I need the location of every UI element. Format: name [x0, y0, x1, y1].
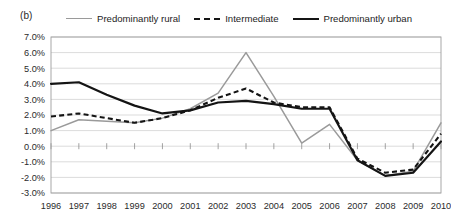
svg-text:2007: 2007: [347, 201, 367, 211]
svg-text:4.0%: 4.0%: [24, 79, 45, 89]
svg-text:2009: 2009: [403, 201, 423, 211]
y-axis-tick-labels: 7.0%6.0%5.0%4.0%3.0%2.0%1.0%0.0%-1.0%-2.…: [21, 32, 45, 198]
svg-text:-2.0%: -2.0%: [21, 173, 45, 183]
svg-text:2010: 2010: [431, 201, 451, 211]
svg-text:2001: 2001: [180, 201, 200, 211]
svg-text:2004: 2004: [264, 201, 284, 211]
svg-text:2000: 2000: [152, 201, 172, 211]
svg-text:2003: 2003: [236, 201, 256, 211]
figure-panel-b: (b) Predominantly rural Intermediate Pre…: [0, 0, 451, 222]
svg-text:5.0%: 5.0%: [24, 64, 45, 74]
svg-text:1999: 1999: [124, 201, 144, 211]
svg-text:3.0%: 3.0%: [24, 95, 45, 105]
svg-text:-3.0%: -3.0%: [21, 188, 45, 198]
svg-text:0.0%: 0.0%: [24, 142, 45, 152]
x-axis-tick-labels: 1996199719981999200020012002200320042005…: [41, 201, 451, 211]
svg-text:1998: 1998: [96, 201, 116, 211]
svg-text:1.0%: 1.0%: [24, 126, 45, 136]
plot-area: 7.0%6.0%5.0%4.0%3.0%2.0%1.0%0.0%-1.0%-2.…: [0, 0, 451, 222]
series-line-predominantly-rural: [51, 53, 441, 176]
svg-text:6.0%: 6.0%: [24, 48, 45, 58]
line-chart-svg: 7.0%6.0%5.0%4.0%3.0%2.0%1.0%0.0%-1.0%-2.…: [0, 0, 451, 222]
svg-text:1996: 1996: [41, 201, 61, 211]
svg-text:2002: 2002: [208, 201, 228, 211]
svg-text:2.0%: 2.0%: [24, 110, 45, 120]
svg-text:2008: 2008: [375, 201, 395, 211]
svg-text:-1.0%: -1.0%: [21, 157, 45, 167]
svg-text:2005: 2005: [291, 201, 311, 211]
svg-text:7.0%: 7.0%: [24, 32, 45, 42]
svg-text:2006: 2006: [319, 201, 339, 211]
gridlines: [51, 37, 441, 193]
svg-text:1997: 1997: [69, 201, 89, 211]
